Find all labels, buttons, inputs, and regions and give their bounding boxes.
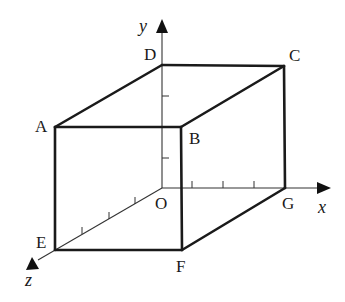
vertex-label-a: A (35, 117, 48, 136)
y-axis-arrow-icon (156, 19, 168, 33)
vertex-label-o: O (155, 194, 167, 213)
z-axis-arrow-icon (26, 257, 39, 270)
edge-ad (55, 65, 162, 127)
edge-cg (284, 66, 285, 188)
vertex-label-g: G (282, 194, 294, 213)
edge-bf (181, 127, 182, 250)
cuboid-edges (55, 65, 285, 250)
axis-label-z: z (24, 270, 32, 290)
x-axis-arrow-icon (317, 182, 331, 194)
axis-label-x: x (317, 197, 326, 217)
vertex-label-d: D (144, 45, 156, 64)
edge-cb (181, 66, 284, 127)
cuboid-diagram: O A B C D E F G x y z (0, 0, 345, 302)
edge-dc (162, 65, 284, 66)
vertex-label-c: C (289, 46, 300, 65)
vertex-label-b: B (189, 129, 200, 148)
axis-label-y: y (137, 16, 147, 36)
vertex-label-f: F (176, 257, 185, 276)
vertex-label-e: E (36, 233, 46, 252)
edge-gf (182, 188, 285, 250)
